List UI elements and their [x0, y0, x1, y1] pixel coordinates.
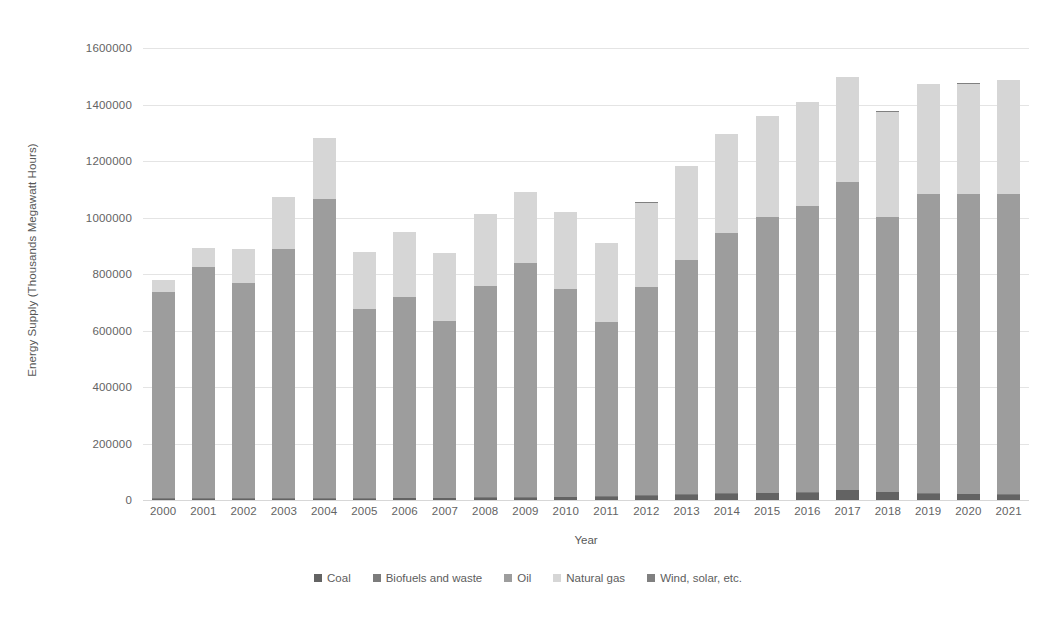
bar-segment[interactable]: [917, 194, 940, 494]
bar-segment[interactable]: [433, 498, 456, 500]
bar-segment[interactable]: [675, 166, 698, 260]
stacked-bar[interactable]: [756, 116, 779, 500]
bar-segment[interactable]: [675, 495, 698, 500]
bar-segment[interactable]: [152, 292, 175, 498]
bar-segment[interactable]: [997, 495, 1020, 500]
legend-item[interactable]: Coal: [314, 572, 351, 584]
bar-segment[interactable]: [232, 283, 255, 498]
stacked-bar[interactable]: [433, 253, 456, 500]
bar-segment[interactable]: [393, 232, 416, 296]
bar-segment[interactable]: [272, 249, 295, 498]
legend-item[interactable]: Oil: [504, 572, 531, 584]
legend-item[interactable]: Wind, solar, etc.: [647, 572, 742, 584]
legend-item[interactable]: Biofuels and waste: [373, 572, 483, 584]
bar-segment[interactable]: [554, 497, 577, 500]
stacked-bar[interactable]: [675, 166, 698, 500]
legend-item[interactable]: Natural gas: [553, 572, 625, 584]
stacked-bar[interactable]: [393, 232, 416, 500]
bar-segment[interactable]: [836, 490, 859, 500]
legend-label: Coal: [327, 572, 351, 584]
bar-segment[interactable]: [836, 77, 859, 182]
bar-segment[interactable]: [514, 263, 537, 497]
bar-slot: [224, 48, 264, 500]
bar-segment[interactable]: [393, 498, 416, 500]
stacked-bar[interactable]: [554, 212, 577, 500]
bar-segment[interactable]: [353, 252, 376, 309]
bar-segment[interactable]: [192, 248, 215, 267]
bar-segment[interactable]: [876, 112, 899, 218]
bar-segment[interactable]: [876, 492, 899, 500]
bar-segment[interactable]: [433, 321, 456, 498]
x-tick-label: 2016: [787, 505, 827, 525]
stacked-bar[interactable]: [272, 197, 295, 500]
stacked-bar[interactable]: [232, 249, 255, 500]
stacked-bar[interactable]: [876, 111, 899, 500]
bar-segment[interactable]: [836, 182, 859, 490]
bar-segment[interactable]: [957, 194, 980, 494]
bar-segment[interactable]: [796, 493, 819, 500]
bar-segment[interactable]: [313, 499, 336, 500]
bar-segment[interactable]: [796, 102, 819, 206]
stacked-bar[interactable]: [917, 84, 940, 500]
bar-segment[interactable]: [635, 496, 658, 500]
bar-segment[interactable]: [353, 499, 376, 500]
bar-segment[interactable]: [635, 287, 658, 495]
bar-segment[interactable]: [595, 497, 618, 500]
bar-segment[interactable]: [554, 289, 577, 497]
bar-segment[interactable]: [313, 199, 336, 498]
bar-segment[interactable]: [715, 233, 738, 494]
bar-segment[interactable]: [353, 309, 376, 498]
bar-segment[interactable]: [876, 217, 899, 492]
bar-segment[interactable]: [474, 286, 497, 498]
stacked-bar[interactable]: [715, 134, 738, 500]
bar-segment[interactable]: [997, 194, 1020, 494]
bar-segment[interactable]: [715, 494, 738, 500]
bar-segment[interactable]: [152, 499, 175, 500]
bar-segment[interactable]: [957, 494, 980, 500]
bar-segment[interactable]: [554, 212, 577, 289]
y-tick-label: 1600000: [86, 42, 132, 54]
bar-segment[interactable]: [313, 138, 336, 199]
bar-segment[interactable]: [192, 267, 215, 498]
bar-segment[interactable]: [675, 260, 698, 494]
bar-segment[interactable]: [514, 498, 537, 500]
bar-segment[interactable]: [272, 499, 295, 500]
bar-segment[interactable]: [192, 499, 215, 500]
bar-segment[interactable]: [635, 203, 658, 288]
stacked-bar[interactable]: [796, 102, 819, 500]
stacked-bar[interactable]: [313, 138, 336, 500]
bar-segment[interactable]: [272, 197, 295, 248]
bar-segment[interactable]: [474, 498, 497, 500]
stacked-bar[interactable]: [595, 243, 618, 500]
bar-segment[interactable]: [474, 214, 497, 285]
bar-segment[interactable]: [393, 297, 416, 498]
stacked-bar[interactable]: [152, 280, 175, 500]
bar-segment[interactable]: [232, 499, 255, 500]
x-tick-label: 2020: [948, 505, 988, 525]
bar-segment[interactable]: [997, 80, 1020, 194]
stacked-bar[interactable]: [635, 202, 658, 500]
bar-segment[interactable]: [595, 322, 618, 496]
stacked-bar[interactable]: [353, 252, 376, 500]
bar-segment[interactable]: [917, 84, 940, 194]
stacked-bar[interactable]: [514, 192, 537, 500]
bar-segment[interactable]: [514, 192, 537, 262]
x-tick-label: 2001: [183, 505, 223, 525]
stacked-bar[interactable]: [836, 77, 859, 500]
bar-segment[interactable]: [756, 217, 779, 493]
stacked-bar[interactable]: [997, 80, 1020, 500]
stacked-bar[interactable]: [474, 214, 497, 500]
bar-segment[interactable]: [796, 206, 819, 492]
bar-segment[interactable]: [917, 494, 940, 500]
bar-segment[interactable]: [433, 253, 456, 321]
stacked-bar[interactable]: [192, 248, 215, 500]
bar-segment[interactable]: [756, 493, 779, 500]
bar-segment[interactable]: [756, 116, 779, 217]
bar-segment[interactable]: [595, 243, 618, 322]
bar-segment[interactable]: [232, 249, 255, 283]
bar-segment[interactable]: [715, 134, 738, 232]
bar-segment[interactable]: [957, 84, 980, 194]
y-axis-tick-labels: 1600000140000012000001000000800000600000…: [60, 0, 138, 619]
bar-segment[interactable]: [152, 280, 175, 292]
stacked-bar[interactable]: [957, 83, 980, 500]
